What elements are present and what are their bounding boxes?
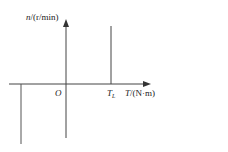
y-axis-arrow-icon (63, 19, 69, 27)
x-axis-label: T/(N·m) (125, 88, 155, 98)
x-axis-arrow-icon (143, 81, 151, 87)
origin-label: O (55, 88, 62, 98)
y-axis-label: n/(r/min) (26, 12, 59, 22)
load-torque-label: TL (107, 88, 116, 99)
torque-speed-diagram: n/(r/min) O TL T/(N·m) (0, 0, 228, 152)
